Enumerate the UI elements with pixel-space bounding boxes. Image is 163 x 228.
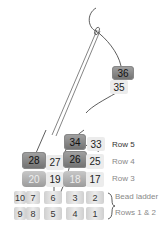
bead-diagram: 36 35 34 33 28 27 26 25 20 19 18 17 10 7… bbox=[0, 0, 163, 228]
bead-25: 25 bbox=[86, 154, 104, 169]
bead-28: 28 bbox=[22, 152, 46, 169]
bead-17: 17 bbox=[86, 172, 104, 187]
bead-36: 36 bbox=[112, 66, 134, 80]
bead-7: 7 bbox=[26, 191, 40, 204]
label-bead-ladder: Bead ladder bbox=[115, 192, 158, 201]
bead-20: 20 bbox=[22, 171, 46, 187]
bead-8: 8 bbox=[26, 207, 40, 220]
bead-3: 3 bbox=[66, 191, 84, 204]
bead-27: 27 bbox=[46, 155, 64, 170]
brace bbox=[108, 193, 115, 219]
bead-10: 10 bbox=[14, 191, 26, 204]
bead-34: 34 bbox=[64, 134, 86, 150]
bead-2: 2 bbox=[86, 191, 104, 204]
label-row3: Row 3 bbox=[112, 174, 135, 183]
bead-26: 26 bbox=[63, 151, 87, 168]
label-row5: Row 5 bbox=[112, 140, 135, 149]
bead-1: 1 bbox=[86, 207, 104, 220]
bead-35: 35 bbox=[110, 80, 128, 94]
bead-33: 33 bbox=[87, 137, 105, 151]
label-row4: Row 4 bbox=[112, 157, 135, 166]
bead-19: 19 bbox=[46, 172, 64, 187]
needle-icon bbox=[52, 27, 100, 136]
bead-5: 5 bbox=[44, 207, 62, 220]
bead-18: 18 bbox=[63, 171, 87, 187]
bead-4: 4 bbox=[66, 207, 84, 220]
label-rows-1-2: Rows 1 & 2 bbox=[115, 208, 156, 217]
bead-9: 9 bbox=[14, 207, 26, 220]
bead-6: 6 bbox=[44, 191, 62, 204]
